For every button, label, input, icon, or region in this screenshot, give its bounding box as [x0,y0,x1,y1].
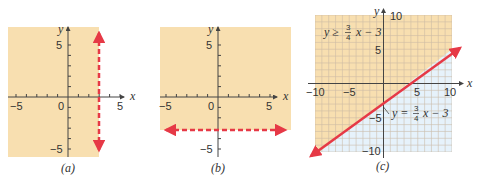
y-tick-neg5: −5 [200,143,213,155]
y-tick-neg5: −5 [50,143,63,155]
x-tick-pos5: 5 [117,100,123,112]
y-tick-neg10: −10 [362,145,381,157]
y-tick-pos10: 10 [390,10,402,22]
inequality-rhs: x − 3 [355,25,381,39]
y-axis-label: y [207,22,214,36]
panel-c: −10 −5 5 10 x 10 5 −5 −10 y y ≥ 3 4 x − … [306,4,473,173]
y-axis-label: y [373,4,380,18]
figure: −5 0 5 x 5 −5 y (a) [0,0,477,181]
x-axis-label: x [129,89,136,103]
panel-b: −5 0 5 x 5 −5 y (b) [159,22,291,175]
x-tick-zero: 0 [58,100,64,112]
inequality-lhs: y ≥ [323,25,339,39]
y-axis-label: y [57,22,64,36]
panel-a: −5 0 5 x 5 −5 y (a) [8,22,136,175]
equation-numerator: 3 [414,104,419,113]
x-tick-neg5: −5 [10,100,23,112]
x-tick-zero: 0 [208,100,214,112]
y-tick-pos5: 5 [56,39,62,51]
x-tick-pos5: 5 [266,100,272,112]
x-axis-label: x [282,89,289,103]
equation-denominator: 4 [414,114,419,123]
x-tick-pos5: 5 [414,86,420,98]
panel-caption-c: (c) [376,159,389,173]
x-tick-neg10: −10 [306,86,325,98]
panel-caption-b: (b) [211,161,225,175]
equation-lhs: y = [391,106,408,120]
shaded-region [160,27,291,130]
x-tick-neg5: −5 [343,86,356,98]
inequality-denominator: 4 [346,33,351,42]
y-tick-pos5: 5 [206,39,212,51]
inequality-numerator: 3 [346,23,351,32]
y-tick-pos5: 5 [375,44,381,56]
x-tick-pos10: 10 [444,86,456,98]
x-tick-neg5: −5 [159,100,172,112]
shaded-region [8,27,99,157]
x-axis-label: x [466,76,473,90]
panel-caption-a: (a) [61,161,75,175]
equation-rhs: x − 3 [422,106,448,120]
